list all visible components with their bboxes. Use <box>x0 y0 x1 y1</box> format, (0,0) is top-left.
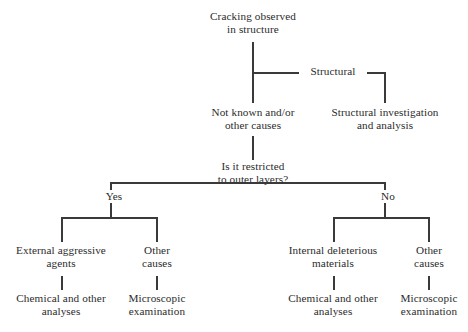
connector-other-causes-left-drop <box>156 217 158 242</box>
connector-yes-split-bar <box>61 217 157 219</box>
node-chemical-analyses-right: Chemical and other analyses <box>276 292 390 319</box>
connector-other-causes-right-drop <box>428 217 430 242</box>
connector-structural-drop <box>384 72 386 103</box>
edge-label-no: No <box>367 190 409 203</box>
flowchart-canvas: Cracking observed in structure Structura… <box>0 0 468 332</box>
node-external-aggressive-agents: External aggressive agents <box>4 244 118 271</box>
connector-other-causes-left-to-microscopic <box>156 276 158 290</box>
connector-other-causes-right-to-microscopic <box>428 276 430 290</box>
node-microscopic-examination-right: Microscopic examination <box>391 292 467 319</box>
node-structural-investigation: Structural investigation and analysis <box>315 106 455 133</box>
connector-notknown-to-decision <box>252 136 254 160</box>
connector-external-agents-drop <box>61 217 63 242</box>
connector-internal-materials-drop <box>333 217 335 242</box>
connector-external-agents-to-chemical <box>61 276 63 290</box>
node-cracking-observed: Cracking observed in structure <box>183 10 323 37</box>
node-not-known-other-causes: Not known and/or other causes <box>185 106 321 133</box>
node-other-causes-left: Other causes <box>122 244 192 271</box>
node-chemical-analyses-left: Chemical and other analyses <box>4 292 118 319</box>
connector-decision-split-bar <box>110 182 385 184</box>
node-other-causes-right: Other causes <box>394 244 464 271</box>
node-microscopic-examination-left: Microscopic examination <box>119 292 195 319</box>
node-internal-deleterious-materials: Internal deleterious materials <box>276 244 390 271</box>
connector-internal-materials-to-chemical <box>333 276 335 290</box>
edge-label-structural: Structural <box>299 65 367 78</box>
connector-no-split-bar <box>333 217 429 219</box>
edge-label-yes: Yes <box>92 190 136 203</box>
